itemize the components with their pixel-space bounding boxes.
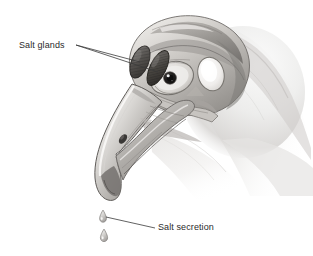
label-salt-secretion: Salt secretion xyxy=(158,222,214,233)
eye-highlight xyxy=(167,74,170,77)
salt-gland-figure: Salt glands Salt secretion xyxy=(0,0,313,256)
label-salt-glands: Salt glands xyxy=(19,40,65,51)
eye xyxy=(164,72,177,84)
bird-head-illustration xyxy=(0,0,313,256)
